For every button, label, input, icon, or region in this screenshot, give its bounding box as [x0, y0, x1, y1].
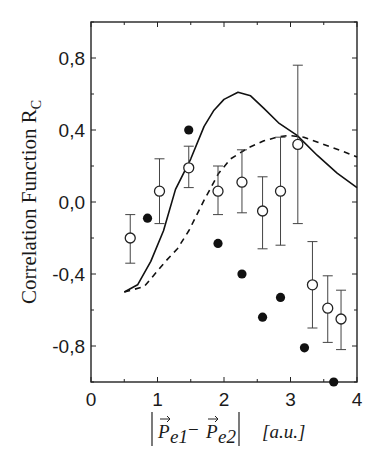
y-tick-label: 0,4 — [59, 120, 86, 141]
x-axis-units: [a.u.] — [262, 421, 305, 442]
x-axis-p2-sub: e2 — [218, 426, 236, 447]
x-tick-label: 3 — [285, 389, 296, 410]
x-tick-label: 4 — [352, 389, 363, 410]
y-tick-label: 0,0 — [59, 192, 85, 213]
y-axis-title-sub: C — [29, 100, 44, 109]
x-tick-label: 1 — [152, 389, 163, 410]
open-circle-marker — [184, 163, 194, 173]
filled-circle-marker — [258, 313, 267, 322]
filled-circle-marker — [329, 377, 338, 386]
filled-circle-marker — [213, 239, 222, 248]
x-axis-p1-sub: e1 — [170, 426, 188, 447]
open-circle-marker — [336, 314, 346, 324]
open-circle-marker — [323, 303, 333, 313]
y-axis-title: Correlation Function RC — [17, 100, 44, 304]
x-tick-labels: 01234 — [86, 389, 363, 410]
y-tick-label: 0,8 — [59, 48, 85, 69]
error-bars — [125, 65, 346, 349]
filled-circle-marker — [184, 125, 193, 134]
open-circle-marker — [276, 186, 286, 196]
correlation-chart: 0,80,40,0-0,4-0,8 01234 Correlation Func… — [0, 0, 376, 461]
open-circle-marker — [307, 280, 317, 290]
open-circle-marker — [125, 233, 135, 243]
x-axis-p2: P — [205, 421, 218, 442]
y-tick-labels: 0,80,40,0-0,4-0,8 — [52, 48, 85, 357]
open-circle-marker — [154, 186, 164, 196]
filled-circle-marker — [276, 293, 285, 302]
filled-circle-marker — [300, 343, 309, 352]
x-axis-minus: − — [188, 419, 199, 440]
y-tick-label: -0,8 — [52, 336, 85, 357]
y-tick-label: -0,4 — [52, 264, 85, 285]
x-tick-label: 0 — [86, 389, 97, 410]
x-axis-title: P e1 − P e2 [a.u.] — [152, 412, 305, 447]
open-circle-marker — [258, 206, 268, 216]
filled-circle-marker — [237, 269, 246, 278]
open-circle-marker — [237, 177, 247, 187]
x-axis-p1: P — [157, 421, 170, 442]
open-circle-marker — [213, 186, 223, 196]
open-circle-marker — [293, 139, 303, 149]
filled-circle-marker — [143, 214, 152, 223]
x-tick-label: 2 — [219, 389, 230, 410]
y-axis-title-main: Correlation Function R — [17, 109, 41, 304]
